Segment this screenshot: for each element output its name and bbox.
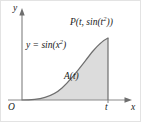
figure-container: P(t, sin(t2)) y = sin(x2) A(t) y x O t [0, 0, 142, 123]
x-axis-label: x [131, 103, 135, 113]
origin-label: O [8, 103, 15, 113]
curve-equation-label: y = sin(x2) [26, 41, 66, 51]
point-p-label: P(t, sin(t2)) [70, 18, 113, 28]
area-at-label: A(t) [64, 72, 79, 82]
y-axis-arrowhead-icon [19, 8, 24, 16]
x-tick-label-t: t [105, 103, 108, 113]
y-axis-label: y [13, 4, 17, 14]
